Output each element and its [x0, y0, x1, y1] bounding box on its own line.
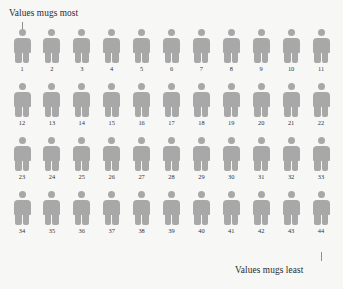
pictogram-figure-44: 44	[306, 191, 336, 225]
figure-number-label: 5	[127, 66, 157, 72]
person-icon	[253, 191, 270, 225]
pictogram-figure-24: 24	[37, 137, 67, 171]
figure-number-label: 11	[306, 66, 336, 72]
person-leg-left-icon	[75, 213, 82, 225]
person-head-icon	[108, 137, 115, 144]
person-head-icon	[138, 83, 145, 90]
figure-number-label: 37	[97, 228, 127, 234]
figure-number-label: 31	[246, 174, 276, 180]
person-icon	[253, 83, 270, 117]
person-head-icon	[138, 29, 145, 36]
figure-number-label: 9	[246, 66, 276, 72]
person-leg-left-icon	[194, 105, 201, 117]
pictogram-figure-38: 38	[127, 191, 157, 225]
person-head-icon	[198, 29, 205, 36]
person-leg-right-icon	[82, 213, 89, 225]
figure-number-label: 3	[67, 66, 97, 72]
person-leg-right-icon	[142, 213, 149, 225]
person-leg-left-icon	[314, 159, 321, 171]
person-leg-right-icon	[292, 105, 299, 117]
person-leg-right-icon	[23, 51, 30, 63]
pictogram-figure-40: 40	[186, 191, 216, 225]
person-icon	[14, 191, 31, 225]
person-leg-left-icon	[165, 159, 172, 171]
figure-number-label: 16	[127, 120, 157, 126]
pictogram-figure-29: 29	[186, 137, 216, 171]
person-leg-right-icon	[232, 51, 239, 63]
figure-number-label: 1	[7, 66, 37, 72]
person-head-icon	[19, 191, 26, 198]
person-head-icon	[78, 83, 85, 90]
person-leg-left-icon	[135, 105, 142, 117]
person-icon	[283, 191, 300, 225]
pictogram-figure-1: 1	[7, 29, 37, 63]
person-leg-right-icon	[202, 213, 209, 225]
person-icon	[283, 83, 300, 117]
person-head-icon	[138, 191, 145, 198]
person-leg-left-icon	[165, 51, 172, 63]
person-icon	[193, 191, 210, 225]
pictogram-chart: Values mugs most 12345678910111213141516…	[0, 0, 343, 289]
person-icon	[43, 83, 60, 117]
person-leg-left-icon	[45, 105, 52, 117]
person-head-icon	[288, 137, 295, 144]
pictogram-figure-26: 26	[97, 137, 127, 171]
person-icon	[103, 191, 120, 225]
person-leg-left-icon	[165, 213, 172, 225]
person-leg-left-icon	[165, 105, 172, 117]
figure-number-label: 17	[157, 120, 187, 126]
person-icon	[313, 83, 330, 117]
figure-number-label: 44	[306, 228, 336, 234]
person-icon	[133, 191, 150, 225]
pictogram-figure-33: 33	[306, 137, 336, 171]
person-head-icon	[78, 191, 85, 198]
person-leg-right-icon	[292, 213, 299, 225]
person-icon	[193, 83, 210, 117]
person-head-icon	[108, 191, 115, 198]
figure-number-label: 6	[157, 66, 187, 72]
pictogram-figure-23: 23	[7, 137, 37, 171]
person-leg-left-icon	[224, 213, 231, 225]
person-leg-left-icon	[254, 213, 261, 225]
person-icon	[223, 191, 240, 225]
person-icon	[193, 137, 210, 171]
figure-number-label: 15	[97, 120, 127, 126]
person-leg-right-icon	[82, 159, 89, 171]
person-head-icon	[78, 137, 85, 144]
person-icon	[73, 191, 90, 225]
person-head-icon	[168, 83, 175, 90]
person-leg-right-icon	[142, 51, 149, 63]
pictogram-figure-19: 19	[216, 83, 246, 117]
person-icon	[313, 29, 330, 63]
person-leg-left-icon	[45, 159, 52, 171]
person-head-icon	[168, 29, 175, 36]
person-leg-right-icon	[82, 105, 89, 117]
pictogram-figure-10: 10	[276, 29, 306, 63]
person-leg-right-icon	[82, 51, 89, 63]
person-icon	[313, 191, 330, 225]
figure-number-label: 39	[157, 228, 187, 234]
pictogram-row: 1234567891011	[0, 29, 343, 83]
figure-number-label: 13	[37, 120, 67, 126]
person-head-icon	[48, 137, 55, 144]
person-icon	[43, 29, 60, 63]
person-leg-right-icon	[322, 159, 329, 171]
pictogram-figure-25: 25	[67, 137, 97, 171]
person-leg-left-icon	[105, 213, 112, 225]
pictogram-figure-8: 8	[216, 29, 246, 63]
person-head-icon	[318, 191, 325, 198]
person-icon	[133, 83, 150, 117]
pictogram-figure-32: 32	[276, 137, 306, 171]
person-head-icon	[48, 29, 55, 36]
pictogram-figure-27: 27	[127, 137, 157, 171]
figure-number-label: 8	[216, 66, 246, 72]
person-leg-right-icon	[202, 159, 209, 171]
person-leg-right-icon	[262, 51, 269, 63]
person-icon	[283, 137, 300, 171]
pictogram-figure-21: 21	[276, 83, 306, 117]
person-leg-left-icon	[135, 159, 142, 171]
person-leg-right-icon	[172, 213, 179, 225]
pictogram-figure-12: 12	[7, 83, 37, 117]
person-head-icon	[168, 137, 175, 144]
annotation-values-mugs-most: Values mugs most	[9, 9, 78, 18]
